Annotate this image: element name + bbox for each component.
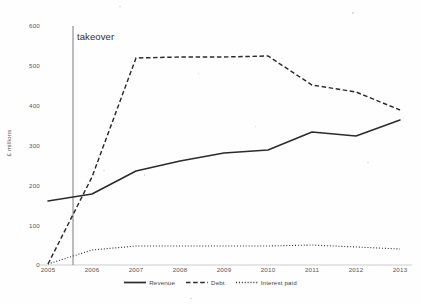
legend-item-interest-paid[interactable]: Interest paid <box>236 279 297 286</box>
legend-label-debt: Debt <box>211 279 225 286</box>
legend-item-debt[interactable]: Debt <box>186 279 225 286</box>
legend-swatch-dotted-icon <box>236 279 258 286</box>
chart-legend: Revenue Debt Interest paid <box>0 279 421 286</box>
legend-item-revenue[interactable]: Revenue <box>124 279 175 286</box>
legend-swatch-dashed-icon <box>186 279 208 286</box>
legend-label-revenue: Revenue <box>149 279 175 286</box>
plot-area <box>0 0 421 304</box>
legend-label-interest-paid: Interest paid <box>261 279 297 286</box>
line-chart: 600 500 400 300 200 100 0 £ millions 200… <box>0 0 421 304</box>
series-line-revenue <box>48 120 400 201</box>
series-line-interest-paid <box>48 245 400 264</box>
series-line-debt <box>48 56 400 264</box>
legend-swatch-solid-icon <box>124 279 146 286</box>
